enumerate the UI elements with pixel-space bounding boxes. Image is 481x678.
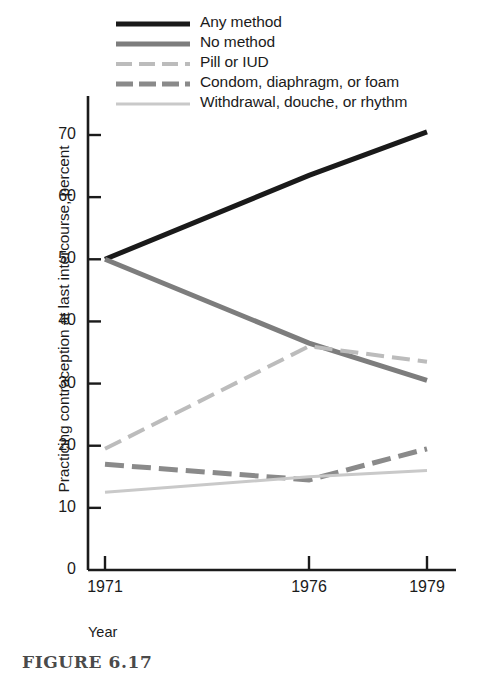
legend-item-pill-or-iud: Pill or IUD <box>114 54 464 74</box>
legend-item-condom: Condom, diaphragm, or foam <box>114 74 464 94</box>
legend-label-pill-or-iud: Pill or IUD <box>200 53 269 71</box>
y-tick-label: 0 <box>36 560 76 578</box>
figure-container: Practicing contraception at last interco… <box>0 0 481 678</box>
y-tick-label: 60 <box>36 187 76 205</box>
series-line-pill-or-iud <box>105 346 427 449</box>
series-line-condom-diaphragm-or-foam <box>105 449 427 480</box>
legend-swatch-any-method <box>114 14 192 34</box>
data-series-group <box>105 132 427 492</box>
legend-swatch-no-method <box>114 34 192 54</box>
tick-marks <box>88 135 427 570</box>
legend-item-any-method: Any method <box>114 14 464 34</box>
legend-item-withdrawal: Withdrawal, douche, or rhythm <box>114 94 464 114</box>
x-tick-label: 1979 <box>397 578 457 596</box>
x-tick-label: 1976 <box>279 578 339 596</box>
x-tick-label: 1971 <box>75 578 135 596</box>
x-axis-title: Year <box>88 624 117 640</box>
figure-caption: FIGURE 6.17 <box>22 652 152 672</box>
series-line-no-method <box>105 259 427 380</box>
legend-label-condom: Condom, diaphragm, or foam <box>200 73 399 91</box>
axis-lines <box>88 96 456 570</box>
legend-swatch-withdrawal <box>114 94 192 114</box>
y-tick-label: 50 <box>36 249 76 267</box>
legend-swatch-condom <box>114 74 192 94</box>
chart-legend: Any method No method Pill or IUD Condom,… <box>114 14 464 114</box>
legend-label-no-method: No method <box>200 33 275 51</box>
y-tick-label: 30 <box>36 374 76 392</box>
y-tick-label: 70 <box>36 125 76 143</box>
series-line-withdrawal-douche-or-rhythm <box>105 471 427 493</box>
legend-label-any-method: Any method <box>200 13 282 31</box>
y-tick-label: 40 <box>36 311 76 329</box>
legend-item-no-method: No method <box>114 34 464 54</box>
series-line-any-method <box>105 132 427 259</box>
y-tick-label: 20 <box>36 436 76 454</box>
y-tick-label: 10 <box>36 498 76 516</box>
legend-swatch-pill-or-iud <box>114 54 192 74</box>
legend-label-withdrawal: Withdrawal, douche, or rhythm <box>200 93 407 111</box>
